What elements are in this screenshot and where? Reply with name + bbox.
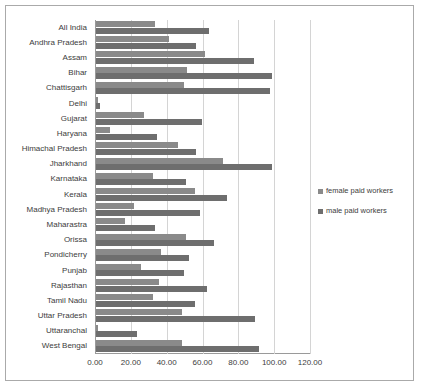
y-axis-label-gujarat: Gujarat: [61, 114, 87, 123]
bar-female-paid-workers: [96, 97, 98, 103]
bar-male-paid-workers: [96, 331, 137, 337]
bar-female-paid-workers: [96, 82, 184, 88]
bar-male-paid-workers: [96, 240, 214, 246]
bar-group: [95, 172, 310, 187]
y-axis-label-chattisgarh: Chattisgarh: [46, 83, 87, 92]
bar-group: [95, 187, 310, 202]
bar-male-paid-workers: [96, 164, 272, 170]
x-tick-40.00: 40.00: [157, 358, 177, 368]
y-axis-label-pondicherry: Pondicherry: [44, 250, 87, 259]
bar-male-paid-workers: [96, 225, 155, 231]
bar-group: [95, 263, 310, 278]
y-axis-label-delhi: Delhi: [69, 99, 87, 108]
y-axis-label-orissa: Orissa: [64, 235, 87, 244]
x-tick-100.00: 100.00: [262, 358, 286, 368]
bar-group: [95, 141, 310, 156]
bar-female-paid-workers: [96, 127, 110, 133]
bar-female-paid-workers: [96, 112, 144, 118]
bar-male-paid-workers: [96, 195, 227, 201]
bar-group: [95, 248, 310, 263]
y-axis-label-west-bengal: West Bengal: [42, 341, 87, 350]
chart-frame: All IndiaAndhra PradeshAssamBiharChattis…: [5, 5, 414, 381]
y-axis-label-jharkhand: Jharkhand: [50, 159, 87, 168]
bar-group: [95, 81, 310, 96]
bar-male-paid-workers: [96, 134, 157, 140]
bar-group: [95, 126, 310, 141]
bar-female-paid-workers: [96, 173, 153, 179]
y-axis-label-rajasthan: Rajasthan: [51, 281, 87, 290]
bar-male-paid-workers: [96, 210, 200, 216]
legend-label: female paid workers: [326, 184, 393, 198]
bar-group: [95, 217, 310, 232]
x-tick-0.00: 0.00: [87, 358, 103, 368]
bar-female-paid-workers: [96, 294, 153, 300]
bar-group: [95, 293, 310, 308]
bar-group: [95, 202, 310, 217]
bar-group: [95, 20, 310, 35]
bar-female-paid-workers: [96, 21, 155, 27]
bar-group: [95, 96, 310, 111]
bar-group: [95, 111, 310, 126]
chart-legend: female paid workersmale paid workers: [318, 184, 410, 224]
y-axis-label-all-india: All India: [59, 23, 87, 32]
bar-female-paid-workers: [96, 249, 161, 255]
legend-swatch-icon: [318, 209, 323, 214]
bar-male-paid-workers: [96, 149, 196, 155]
bar-female-paid-workers: [96, 203, 134, 209]
bar-male-paid-workers: [96, 255, 189, 261]
bar-male-paid-workers: [96, 58, 254, 64]
bar-group: [95, 66, 310, 81]
bar-female-paid-workers: [96, 264, 141, 270]
y-axis-label-tamil-nadu: Tamil Nadu: [47, 296, 87, 305]
bar-female-paid-workers: [96, 142, 178, 148]
bar-female-paid-workers: [96, 218, 125, 224]
y-axis-label-bihar: Bihar: [68, 68, 87, 77]
bar-female-paid-workers: [96, 234, 186, 240]
y-axis-label-maharastra: Maharastra: [47, 220, 87, 229]
bar-female-paid-workers: [96, 188, 195, 194]
y-axis-label-haryana: Haryana: [57, 129, 87, 138]
bar-female-paid-workers: [96, 36, 169, 42]
bar-group: [95, 157, 310, 172]
bar-group: [95, 233, 310, 248]
bar-male-paid-workers: [96, 28, 209, 34]
bar-male-paid-workers: [96, 119, 202, 125]
bar-female-paid-workers: [96, 158, 223, 164]
bar-male-paid-workers: [96, 73, 272, 79]
bar-group: [95, 339, 310, 354]
y-axis-category-labels: All IndiaAndhra PradeshAssamBiharChattis…: [6, 20, 91, 354]
bar-male-paid-workers: [96, 270, 184, 276]
y-axis-label-uttar-pradesh: Uttar Pradesh: [38, 311, 87, 320]
bar-male-paid-workers: [96, 179, 186, 185]
y-axis-label-kerala: Kerala: [64, 190, 87, 199]
gridline-120.00: [310, 20, 311, 354]
bar-group: [95, 324, 310, 339]
x-tick-20.00: 20.00: [121, 358, 141, 368]
bar-male-paid-workers: [96, 286, 207, 292]
x-tick-120.00: 120.00: [298, 358, 322, 368]
bar-female-paid-workers: [96, 51, 205, 57]
bar-group: [95, 308, 310, 323]
x-tick-80.00: 80.00: [228, 358, 248, 368]
bar-female-paid-workers: [96, 325, 98, 331]
bar-group: [95, 278, 310, 293]
x-tick-60.00: 60.00: [192, 358, 212, 368]
bar-female-paid-workers: [96, 340, 182, 346]
x-axis-tick-labels: 0.0020.0040.0060.0080.00100.00120.00: [6, 358, 415, 372]
legend-item[interactable]: female paid workers: [318, 184, 410, 198]
y-axis-label-andhra-pradesh: Andhra Pradesh: [29, 38, 87, 47]
bar-male-paid-workers: [96, 346, 259, 352]
bar-female-paid-workers: [96, 279, 159, 285]
bar-male-paid-workers: [96, 88, 270, 94]
bar-male-paid-workers: [96, 301, 195, 307]
bar-group: [95, 35, 310, 50]
bar-male-paid-workers: [96, 103, 100, 109]
bar-male-paid-workers: [96, 316, 255, 322]
y-axis-label-himachal-pradesh: Himachal Pradesh: [22, 144, 87, 153]
y-axis-label-karnataka: Karnataka: [51, 174, 87, 183]
legend-swatch-icon: [318, 189, 323, 194]
y-axis-label-assam: Assam: [63, 53, 87, 62]
legend-item[interactable]: male paid workers: [318, 204, 410, 218]
bar-group: [95, 50, 310, 65]
bar-female-paid-workers: [96, 67, 187, 73]
